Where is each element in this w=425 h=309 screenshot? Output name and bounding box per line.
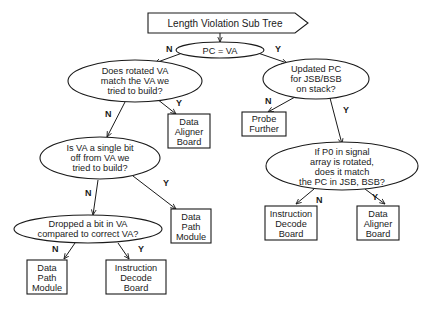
svg-text:does it match: does it match xyxy=(315,167,370,177)
svg-text:Data: Data xyxy=(37,263,57,273)
label-dropped-y: Y xyxy=(138,244,144,254)
svg-text:the PC in JSB, BSB?: the PC in JSB, BSB? xyxy=(299,177,385,187)
diagram-title: Length Violation Sub Tree xyxy=(168,18,283,29)
edge-p0-instr xyxy=(296,189,314,204)
svg-text:Board: Board xyxy=(366,229,391,239)
result-data-aligner-board-1: Data Aligner Board xyxy=(168,114,210,148)
svg-text:PC = VA: PC = VA xyxy=(203,46,239,56)
edge-single-dropped xyxy=(93,180,98,215)
title-box: Length Violation Sub Tree xyxy=(148,13,308,33)
svg-text:off from VA we: off from VA we xyxy=(71,153,130,163)
edge-rotated-single xyxy=(107,102,125,137)
label-p0-n: N xyxy=(316,195,323,205)
result-probe-further: Probe Further xyxy=(242,112,286,136)
svg-text:Further: Further xyxy=(249,124,279,134)
svg-text:Data: Data xyxy=(368,209,388,219)
decision-p0-signal-array: If P0 in signal array is rotated, does i… xyxy=(266,142,418,190)
edge-rotated-aligner xyxy=(157,99,176,114)
svg-text:Instruction: Instruction xyxy=(115,263,157,273)
edge-updated-probe xyxy=(268,97,295,112)
label-root-y: Y xyxy=(275,44,281,54)
result-data-path-module-1: Data Path Module xyxy=(171,209,211,243)
svg-text:If P0 in signal: If P0 in signal xyxy=(314,147,369,157)
svg-text:Module: Module xyxy=(32,283,62,293)
label-rotated-n: N xyxy=(105,109,112,119)
decision-rotated-va-match: Does rotated VA match the VA we tried to… xyxy=(68,60,202,102)
svg-text:on stack?: on stack? xyxy=(296,84,335,94)
svg-text:Does rotated VA: Does rotated VA xyxy=(102,66,170,76)
decision-single-bit-off: Is VA a single bit off from VA we tried … xyxy=(40,137,160,179)
svg-text:Board: Board xyxy=(177,137,202,147)
label-single-y: Y xyxy=(163,178,169,188)
svg-text:Probe: Probe xyxy=(252,114,277,124)
result-instruction-decode-board-2: Instruction Decode Board xyxy=(265,206,317,240)
svg-text:Aligner: Aligner xyxy=(364,219,393,229)
svg-text:Updated PC: Updated PC xyxy=(291,64,341,74)
decision-updated-pc-on-stack: Updated PC for JSB/BSB on stack? xyxy=(263,59,369,99)
edge-updated-p0 xyxy=(330,98,342,144)
label-updated-y: Y xyxy=(343,105,349,115)
svg-text:Aligner: Aligner xyxy=(175,127,204,137)
svg-text:Data: Data xyxy=(179,117,199,127)
decision-pc-equals-va: PC = VA xyxy=(176,42,264,58)
svg-text:for JSB/BSB: for JSB/BSB xyxy=(290,74,341,84)
svg-text:Module: Module xyxy=(176,232,206,242)
svg-text:Instruction: Instruction xyxy=(270,209,312,219)
label-dropped-n: N xyxy=(52,244,59,254)
length-violation-decision-tree: Length Violation Sub Tree N Y N Y N Y N … xyxy=(0,0,425,309)
svg-text:tried to build?: tried to build? xyxy=(107,86,162,96)
svg-text:match the VA we: match the VA we xyxy=(101,76,169,86)
result-data-aligner-board-2: Data Aligner Board xyxy=(357,206,399,240)
label-root-n: N xyxy=(166,44,173,54)
edge-dropped-instr xyxy=(118,243,129,259)
svg-text:compared to correct VA?: compared to correct VA? xyxy=(38,229,139,239)
edge-single-datapath xyxy=(133,176,176,209)
result-instruction-decode-board-1: Instruction Decode Board xyxy=(106,260,166,294)
label-rotated-y: Y xyxy=(176,98,182,108)
svg-text:Path: Path xyxy=(182,222,201,232)
edge-dropped-datapath xyxy=(64,243,75,259)
svg-text:Dropped a bit in VA: Dropped a bit in VA xyxy=(49,219,129,229)
label-single-n: N xyxy=(85,188,92,198)
label-p0-y: Y xyxy=(372,192,378,202)
svg-text:Board: Board xyxy=(124,283,149,293)
svg-text:array is rotated,: array is rotated, xyxy=(310,157,374,167)
svg-text:Board: Board xyxy=(279,229,304,239)
svg-text:tried to build?: tried to build? xyxy=(72,163,127,173)
svg-text:Decode: Decode xyxy=(275,219,307,229)
label-updated-n: N xyxy=(265,96,272,106)
decision-dropped-bit: Dropped a bit in VA compared to correct … xyxy=(14,215,162,243)
svg-text:Data: Data xyxy=(181,212,201,222)
result-data-path-module-2: Data Path Module xyxy=(27,260,67,294)
svg-text:Path: Path xyxy=(38,273,57,283)
svg-text:Is VA a single bit: Is VA a single bit xyxy=(66,143,134,153)
svg-text:Decode: Decode xyxy=(120,273,152,283)
